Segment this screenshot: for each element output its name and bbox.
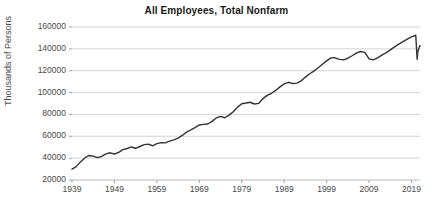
chart-container: All Employees, Total Nonfarm Thousands o… bbox=[0, 0, 433, 210]
plot-area bbox=[0, 0, 433, 210]
data-line-total-nonfarm bbox=[72, 35, 420, 169]
